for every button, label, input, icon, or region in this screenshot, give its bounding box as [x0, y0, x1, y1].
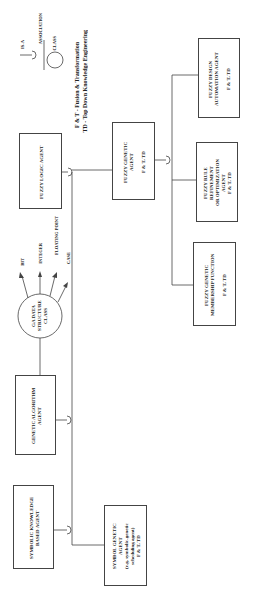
legend-association-label: ASSOCIATION — [38, 13, 43, 44]
symbolic-knowledge-based-agent-node: SYMBOLIC KNOWLEDGE BASED AGENT — [13, 485, 54, 569]
ga-type-floating-point: FLOATING POINT — [54, 216, 59, 255]
legend-abbrev-ft: F & T - Fusion & Transformation — [74, 42, 81, 128]
legend-is-a-label: IS-A — [20, 40, 25, 49]
symbolic-knowledge-based-agent-label: SYMBOLIC KNOWLEDGE BASED AGENT — [14, 486, 55, 570]
fuzzy-logic-agent-node: FUZZY LOGIC AGENT — [19, 133, 62, 209]
ga-data-structure-class-label: GA DATA STRUCTURE CLASS — [22, 298, 58, 334]
fuzzy-logic-agent-label: FUZZY LOGIC AGENT — [20, 134, 63, 210]
genetic-algorithm-agent-label: GENETIC ALGORITHM AGENT — [16, 376, 57, 456]
genetic-algorithm-agent-node: GENETIC ALGORITHM AGENT — [15, 375, 56, 455]
fuzzy-design-automation-agent-label: FUZZY DESIGN AUTOMATION AGENT F & T, TD — [199, 39, 241, 119]
symbol-genetic-agent-node: SYMBOL GENETIC AGENT (e.g. symbolic-gene… — [104, 505, 147, 586]
fuzzy-genetic-agent-label: FUZZY GENETIC AGENT F & T, TD — [113, 123, 156, 201]
ga-type-case: CASE — [66, 252, 71, 264]
legend-abbrev-td: TD - Top Down Knowledge Engineering — [82, 30, 89, 133]
fuzzy-genetic-membership-function-node: FUZZY GENETIC MEMBERSHIP FUNCTION F & T,… — [193, 242, 236, 326]
fuzzy-genetic-agent-node: FUZZY GENETIC AGENT F & T, TD — [112, 122, 155, 200]
legend-class-label: CLASS — [52, 36, 57, 51]
ga-type-integer: INTEGER — [38, 243, 43, 264]
symbol-genetic-agent-label: SYMBOL GENETIC AGENT (e.g. symbolic-gene… — [105, 506, 148, 587]
fuzzy-rule-refinement-agent-node: FUZZY RULE REFINEMENT OR OPTIMIZATION AG… — [196, 142, 238, 222]
fuzzy-genetic-membership-function-label: FUZZY GENETIC MEMBERSHIP FUNCTION F & T,… — [194, 243, 237, 327]
fuzzy-design-automation-agent-node: FUZZY DESIGN AUTOMATION AGENT F & T, TD — [198, 38, 240, 118]
ga-type-bit: BIT — [20, 258, 25, 266]
fuzzy-rule-refinement-agent-label: FUZZY RULE REFINEMENT OR OPTIMIZATION AG… — [197, 143, 239, 223]
